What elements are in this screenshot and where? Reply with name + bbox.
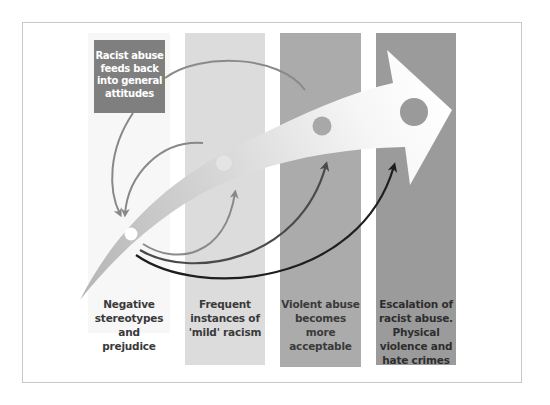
- stage-label: Escalation of racist abuse. Physical vio…: [376, 297, 456, 367]
- stage-label: Negative stereotypes and prejudice: [88, 297, 170, 353]
- stage-label: Violent abuse becomes more acceptable: [280, 297, 361, 353]
- stage-column-mild-racism: Frequent instances of 'mild' racism: [185, 33, 265, 365]
- stage-column-escalation: Escalation of racist abuse. Physical vio…: [376, 33, 456, 365]
- stage-column-violent-abuse: Violent abuse becomes more acceptable: [280, 33, 361, 367]
- feedback-box: Racist abuse feeds back into general att…: [94, 40, 165, 113]
- stage-label: Frequent instances of 'mild' racism: [185, 297, 265, 339]
